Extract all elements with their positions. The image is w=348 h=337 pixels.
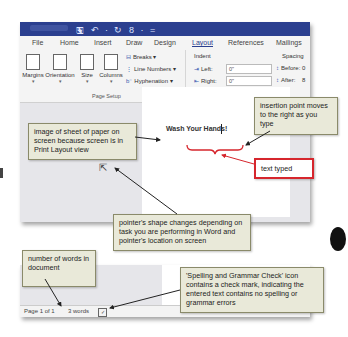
indent-right-icon: ⇤ xyxy=(194,78,199,84)
word-count[interactable]: 3 words xyxy=(68,308,89,314)
chevron-down-icon: ▾ xyxy=(76,78,98,84)
spacing-before-icon: ↕ xyxy=(276,65,279,71)
indent-left-icon: ⇥ xyxy=(194,66,199,72)
spacing-after-icon: ↕ xyxy=(276,77,279,83)
indent-left-label: ⇥Left: xyxy=(194,65,213,72)
mouse-pointer-icon: ⇱ xyxy=(99,162,107,173)
chevron-down-icon: ▾ xyxy=(20,78,46,84)
tab-draw[interactable]: Draw xyxy=(126,39,142,46)
callout-spelling: 'Spelling and Grammar Check' icon contai… xyxy=(180,267,324,313)
insertion-point xyxy=(221,124,222,134)
callout-word-count: number of words in document xyxy=(22,250,96,287)
spacing-after-label: ↕After: xyxy=(276,77,295,83)
line-numbers-button[interactable]: ⋮Line Numbers ▾ xyxy=(126,65,176,72)
spacing-label: Spacing xyxy=(282,53,304,59)
breaks-icon: ⊟ xyxy=(126,54,131,60)
columns-icon xyxy=(104,54,118,70)
size-button[interactable]: Size ▾ xyxy=(76,54,98,84)
margins-button[interactable]: Margins ▾ xyxy=(20,54,46,84)
chevron-down-icon: ▾ xyxy=(98,78,124,84)
ribbon-tabs: File Home Insert Draw Design Layout Refe… xyxy=(20,36,310,50)
tab-home[interactable]: Home xyxy=(60,39,79,46)
tab-references[interactable]: References xyxy=(228,39,264,46)
chevron-down-icon: ▾ xyxy=(44,78,76,84)
columns-button[interactable]: Columns ▾ xyxy=(98,54,124,84)
callout-insertion-point: insertion point moves to the right as yo… xyxy=(254,97,338,135)
spacing-after-input[interactable]: 8 xyxy=(302,77,305,83)
hyphenation-button[interactable]: b⁻Hyphenation ▾ xyxy=(126,77,173,84)
margin-marker xyxy=(0,168,3,178)
title-bar: 🖫 ↶ · ↻ 8 · = xyxy=(20,22,310,36)
tab-layout[interactable]: Layout xyxy=(192,39,213,47)
margins-icon xyxy=(26,54,40,70)
breaks-button[interactable]: ⊟Breaks ▾ xyxy=(126,53,156,60)
hyphenation-icon: b⁻ xyxy=(126,78,132,84)
spacing-before-input[interactable]: 0 xyxy=(302,65,305,71)
tab-insert[interactable]: Insert xyxy=(94,39,112,46)
spacing-before-label: ↕Before: xyxy=(276,65,300,71)
tab-design[interactable]: Design xyxy=(154,39,176,46)
indent-right-label: ⇤Right: xyxy=(194,77,217,84)
size-icon xyxy=(80,54,94,70)
orientation-button[interactable]: Orientation ▾ xyxy=(44,54,76,84)
page-count[interactable]: Page 1 of 1 xyxy=(24,308,55,314)
orientation-icon xyxy=(53,54,67,70)
callout-print-layout: image of sheet of paper on screen becaus… xyxy=(28,123,137,160)
spelling-grammar-check-icon[interactable]: ✓ xyxy=(98,308,107,317)
document-text[interactable]: Wash Your Hands! xyxy=(166,125,227,132)
callout-pointer-shape: pointer's shape changes depending on tas… xyxy=(113,214,251,251)
line-numbers-icon: ⋮ xyxy=(126,66,132,72)
page-edge-graphic xyxy=(330,227,346,251)
tab-mailings[interactable]: Mailings xyxy=(276,39,302,46)
callout-text-typed: text typed xyxy=(254,158,314,179)
indent-left-input[interactable]: 0" xyxy=(226,64,272,74)
tab-file[interactable]: File xyxy=(32,39,43,46)
autosave-toggle[interactable] xyxy=(30,25,68,31)
indent-label: Indent xyxy=(194,53,211,59)
indent-right-input[interactable]: 0" xyxy=(226,76,272,86)
page-setup-group-label: Page Setup xyxy=(92,93,121,99)
